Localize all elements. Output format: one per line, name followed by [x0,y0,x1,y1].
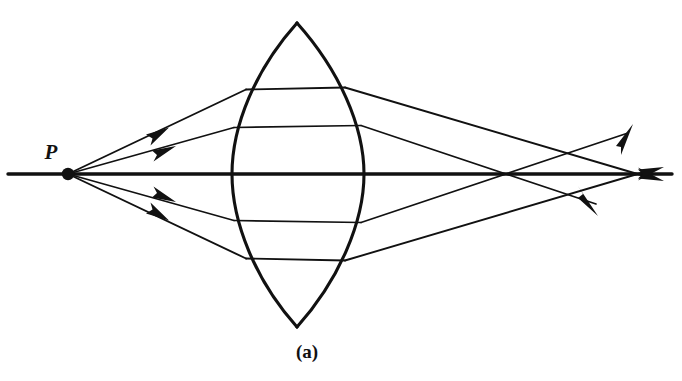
ray-lower-marginal-inside [246,259,345,261]
ray-lower-marginal-exit [345,172,646,261]
ray-lower-paraxial-terminal-arrow [616,124,633,155]
figure-container: P (a) [0,0,682,381]
ray-lower-paraxial-exit [361,133,628,223]
figure-caption: (a) [296,341,318,363]
ray-lower-paraxial-inside [234,221,361,223]
ray-lower-paraxial-direction-arrow [152,187,176,203]
ray-lower-marginal-direction-arrow [146,203,169,221]
source-point-label: P [44,140,58,164]
ray-upper-marginal-direction-arrow [146,128,169,146]
ray-upper-paraxial-direction-arrow [152,146,176,162]
ray-upper-paraxial-inside [234,126,361,128]
ray-upper-marginal-exit [345,88,646,177]
source-point-dot [62,168,74,180]
spherical-aberration-diagram: P (a) [0,0,682,381]
ray-upper-paraxial-exit [361,126,596,205]
ray-upper-marginal [68,88,664,182]
ray-upper-marginal-inside [246,88,345,90]
ray-lower-marginal [68,167,664,261]
